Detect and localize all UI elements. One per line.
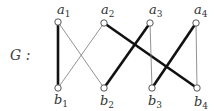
node-b3 bbox=[149, 85, 155, 91]
node-label-b3: b3 bbox=[148, 93, 162, 110]
node-label-a2: a2 bbox=[101, 2, 115, 19]
edge-a4-b4 bbox=[196, 23, 197, 88]
node-labels: a1a2a3a4b1b2b3b4 bbox=[54, 2, 208, 111]
node-label-a1: a1 bbox=[57, 2, 71, 19]
node-b1 bbox=[55, 85, 61, 91]
node-b4 bbox=[194, 85, 200, 91]
node-a2 bbox=[101, 20, 107, 26]
node-a4 bbox=[193, 20, 199, 26]
node-a1 bbox=[55, 19, 61, 25]
node-b2 bbox=[101, 85, 107, 91]
node-a3 bbox=[147, 20, 153, 26]
edge-a4-b3 bbox=[152, 23, 196, 88]
node-label-b4: b4 bbox=[194, 94, 208, 111]
node-label-b1: b1 bbox=[54, 92, 68, 109]
node-label-a4: a4 bbox=[194, 2, 208, 19]
node-label-b2: b2 bbox=[100, 93, 114, 110]
edges bbox=[58, 22, 197, 88]
bipartite-graph-G: G : a1a2a3a4b1b2b3b4 bbox=[0, 0, 217, 111]
graph-label: G : bbox=[10, 47, 30, 63]
edge-a3-b2 bbox=[104, 23, 150, 88]
node-label-a3: a3 bbox=[149, 2, 163, 19]
